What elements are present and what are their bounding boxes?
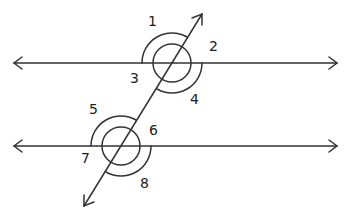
- angle-label-7: 7: [81, 150, 90, 166]
- angle-label-3: 3: [130, 70, 139, 86]
- angle-label-2: 2: [209, 38, 218, 54]
- angle-label-8: 8: [140, 175, 149, 191]
- top-line: [14, 57, 337, 69]
- angle-label-1: 1: [148, 13, 157, 29]
- bottom-line: [14, 140, 337, 152]
- angle-8-arc: [106, 146, 151, 176]
- angle-label-5: 5: [89, 101, 98, 117]
- angle-label-6: 6: [149, 122, 158, 138]
- angle-4-arc: [157, 63, 202, 93]
- angle-label-4: 4: [190, 91, 199, 107]
- diagram-canvas: 1 2 3 4 5 6 7 8: [0, 0, 349, 220]
